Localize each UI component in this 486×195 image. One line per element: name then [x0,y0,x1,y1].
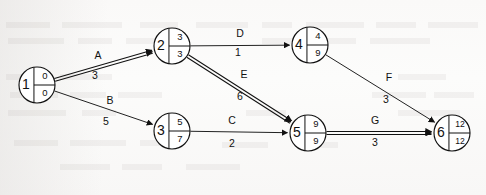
edge-duration: 3 [383,93,389,105]
node-6: 61212 [434,115,470,151]
node-event-number: 3 [157,122,165,138]
edge-g [327,132,432,135]
edge-duration: 3 [92,69,98,81]
node-5: 599 [290,115,326,151]
edge-stroke-lower [54,50,152,78]
node-earliest-time: 5 [177,116,182,127]
node-event-number: 5 [293,124,301,140]
edge-duration: 5 [103,115,109,127]
edge-f [326,55,435,122]
edge-stroke [326,55,435,122]
edge-activity-name: C [228,114,236,126]
edge-a [54,50,152,81]
node-earliest-time: 0 [42,70,47,81]
edge-label-group-d: D1 [235,27,244,58]
edge-activity-name: E [240,68,247,80]
node-latest-time: 7 [177,133,182,144]
edge-duration: 6 [237,90,243,102]
edge-label-group-e: E6 [237,68,247,102]
edge-c [190,131,287,132]
edge-duration: 1 [235,46,241,58]
network-graph: 10023335744959961212 A3B5C2D1E6F3G3 [0,0,486,195]
edge-label-group-c: C2 [228,114,236,149]
node-earliest-time: 3 [177,31,182,42]
edge-activity-name: A [94,49,101,61]
network-diagram-canvas: 10023335744959961212 A3B5C2D1E6F3G3 [0,0,486,195]
edge-label-group-f: F3 [383,71,392,105]
edge-activity-name: F [386,71,392,83]
node-earliest-time: 4 [315,30,320,41]
node-latest-time: 9 [315,47,320,58]
node-3: 357 [154,113,190,149]
node-latest-time: 0 [42,87,47,98]
edge-stroke-upper [55,53,153,81]
node-2: 233 [154,28,190,64]
node-latest-time: 3 [177,48,182,59]
node-event-number: 6 [437,124,445,140]
node-4: 449 [292,27,328,63]
edge-stroke [190,131,287,132]
node-event-number: 1 [22,76,30,92]
node-event-number: 4 [295,36,303,52]
node-event-number: 2 [157,37,165,53]
node-latest-time: 12 [455,136,465,146]
edge-label-group-g: G3 [371,114,379,148]
edge-activity-name: B [106,94,113,106]
edge-activity-name: D [236,27,244,39]
node-earliest-time: 12 [455,119,465,129]
edge-duration: 2 [229,137,235,149]
edge-activity-name: G [371,114,379,126]
node-earliest-time: 9 [313,118,318,129]
edge-stroke-lower [188,55,291,121]
edge-duration: 3 [372,136,378,148]
node-latest-time: 9 [313,135,318,146]
node-1: 100 [19,67,55,103]
